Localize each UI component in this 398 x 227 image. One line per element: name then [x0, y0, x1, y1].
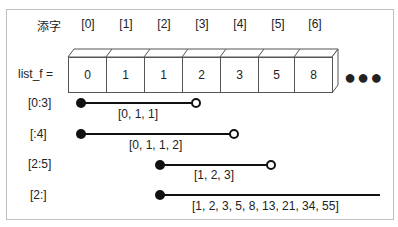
list-cell-0: 0: [68, 57, 107, 93]
subscript-label: 添字: [37, 17, 61, 34]
diagram-frame: [6, 9, 394, 220]
slice-result-4: [0, 1, 1, 2]: [129, 138, 182, 152]
start-dot-icon: [76, 129, 86, 139]
start-dot-icon: [155, 190, 165, 200]
list-label: list_f =: [18, 67, 53, 81]
index-6: [6]: [300, 17, 330, 31]
list-cell-5: 5: [258, 57, 295, 93]
index-3: [3]: [187, 17, 217, 31]
slice-label-0-3: [0:3]: [28, 96, 51, 110]
list-cell-2: 1: [144, 57, 183, 93]
slice-result-2-5: [1, 2, 3]: [194, 168, 234, 182]
slice-label-2-5: [2:5]: [28, 157, 51, 171]
index-2: [2]: [149, 17, 179, 31]
index-5: [5]: [263, 17, 293, 31]
start-dot-icon: [76, 98, 86, 108]
slice-line-4: [81, 133, 231, 135]
slice-label-2: [2:]: [30, 188, 47, 202]
slice-line-2-5: [160, 164, 268, 166]
slice-line-2-to-end: [160, 194, 380, 196]
list-cell-3: 2: [182, 57, 221, 93]
slice-label-4: [:4]: [30, 127, 47, 141]
index-0: [0]: [73, 17, 103, 31]
slice-result-0-3: [0, 1, 1]: [118, 107, 158, 121]
list-cell-6: 8: [294, 57, 333, 93]
ellipsis-icon: ●●●: [344, 66, 383, 89]
list-cell-4: 3: [220, 57, 259, 93]
slice-result-2-to-end: [1, 2, 3, 5, 8, 13, 21, 34, 55]: [192, 199, 339, 213]
index-4: [4]: [225, 17, 255, 31]
open-end-circle-icon: [191, 98, 201, 108]
list-cell-1: 1: [106, 57, 145, 93]
index-1: [1]: [111, 17, 141, 31]
open-end-circle-icon: [229, 129, 239, 139]
start-dot-icon: [155, 160, 165, 170]
slice-line-0-3: [81, 102, 193, 104]
open-end-circle-icon: [266, 160, 276, 170]
